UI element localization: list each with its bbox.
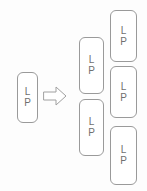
node-middle-2[interactable]: L P [79,99,104,156]
node-label-line2: P [24,98,31,108]
node-right-1[interactable]: L P [110,10,137,62]
node-label-line1: L [25,87,31,97]
node-label-line1: L [121,26,127,36]
diagram-canvas: L P L P L P L P L P L P [0,0,147,191]
node-label-line1: L [89,55,95,65]
node-middle-1[interactable]: L P [79,37,104,94]
node-right-3[interactable]: L P [110,126,137,185]
node-label-line2: P [120,37,127,47]
node-label-line1: L [121,145,127,155]
node-label-line2: P [88,128,95,138]
node-right-2[interactable]: L P [110,66,137,118]
node-label-line1: L [89,117,95,127]
node-label-line2: P [120,93,127,103]
node-label-line1: L [121,82,127,92]
node-label-line2: P [88,66,95,76]
right-arrow-icon [43,85,67,107]
node-label-line2: P [120,156,127,166]
node-source-1[interactable]: L P [17,72,38,123]
